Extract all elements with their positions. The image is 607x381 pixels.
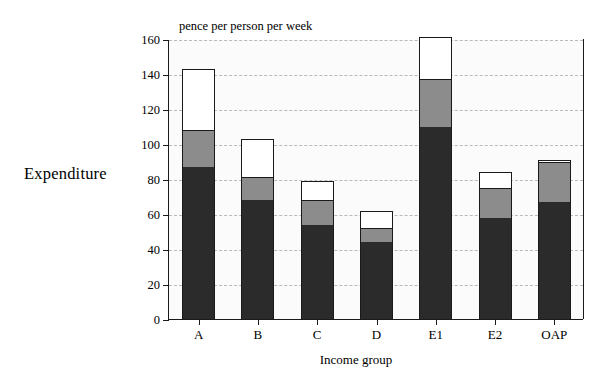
y-tick-label: 20 [148, 279, 161, 292]
bar-segment-white[interactable] [182, 69, 215, 130]
bar-segment-dark[interactable] [301, 225, 334, 320]
y-axis-title: Expenditure [24, 164, 144, 184]
bar-group[interactable]: B [241, 39, 274, 319]
x-tick-mark [495, 319, 496, 325]
y-tick-label: 100 [141, 139, 160, 152]
plot-area: 020406080100120140160 ABCDE1E2OAP [168, 40, 583, 320]
bar-segment-white[interactable] [538, 160, 571, 162]
bar-group[interactable]: D [360, 39, 393, 319]
x-tick-label: A [194, 328, 203, 341]
y-tick-label: 0 [154, 314, 160, 327]
y-tick-label: 140 [141, 69, 160, 82]
x-tick-label: D [372, 328, 381, 341]
bar-group[interactable]: E2 [479, 39, 512, 319]
bar-segment-grey[interactable] [419, 79, 452, 126]
bar-segment-grey[interactable] [182, 130, 215, 167]
bar-segment-grey[interactable] [479, 188, 512, 218]
bar-group[interactable]: A [182, 39, 215, 319]
bar-group[interactable]: E1 [419, 39, 452, 319]
bar-series-container: ABCDE1E2OAP [169, 40, 583, 319]
bar-segment-grey[interactable] [538, 162, 571, 202]
bar-group[interactable]: OAP [538, 39, 571, 319]
y-tick-label: 160 [141, 34, 160, 47]
x-tick-mark [377, 319, 378, 325]
y-tick-label: 120 [141, 104, 160, 117]
bar-segment-white[interactable] [301, 181, 334, 200]
bar-group[interactable]: C [301, 39, 334, 319]
bar-segment-dark[interactable] [538, 202, 571, 319]
y-tick-mark [163, 320, 169, 321]
x-tick-label: C [313, 328, 322, 341]
bar-segment-grey[interactable] [360, 228, 393, 242]
bar-segment-dark[interactable] [419, 127, 452, 320]
bar-segment-dark[interactable] [241, 200, 274, 319]
bar-segment-grey[interactable] [301, 200, 334, 225]
x-tick-label: E2 [488, 328, 502, 341]
y-tick-label: 80 [148, 174, 161, 187]
x-axis-title: Income group [320, 352, 393, 368]
units-label: pence per person per week [179, 19, 312, 34]
x-tick-mark [258, 319, 259, 325]
bar-segment-white[interactable] [479, 172, 512, 188]
x-axis-title-wrap: Income group [0, 352, 607, 368]
y-tick-label: 40 [148, 244, 161, 257]
x-tick-mark [317, 319, 318, 325]
y-tick-label: 60 [148, 209, 161, 222]
bar-segment-white[interactable] [241, 139, 274, 178]
x-tick-label: B [254, 328, 263, 341]
bar-segment-dark[interactable] [182, 167, 215, 319]
bar-segment-grey[interactable] [241, 177, 274, 200]
bar-segment-white[interactable] [419, 37, 452, 79]
x-tick-mark [554, 319, 555, 325]
bar-segment-dark[interactable] [360, 242, 393, 319]
bar-chart-figure: Expenditure pence per person per week 02… [0, 0, 607, 381]
x-tick-label: E1 [429, 328, 443, 341]
x-tick-mark [436, 319, 437, 325]
bar-segment-white[interactable] [360, 211, 393, 229]
bar-segment-dark[interactable] [479, 218, 512, 320]
x-tick-mark [199, 319, 200, 325]
x-tick-label: OAP [541, 328, 567, 341]
